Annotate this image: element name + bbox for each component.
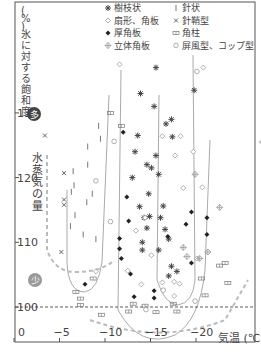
data-point-double-bar — [130, 302, 136, 305]
legend-label: 角柱 — [182, 27, 200, 38]
data-point-circle — [112, 139, 117, 144]
data-points — [43, 62, 261, 316]
y-tick-label: 110 — [17, 236, 38, 249]
data-point-x — [62, 198, 66, 202]
legend-symbol-icon — [105, 5, 111, 11]
data-point-filled-diamond — [189, 261, 194, 266]
x-tick-label: 0 — [18, 326, 25, 339]
data-point-open-diamond — [172, 279, 177, 284]
data-point-asterisk — [156, 247, 162, 253]
y-tick-label: 100 — [17, 301, 38, 314]
data-point-double-bar — [73, 291, 79, 294]
data-point-filled-diamond — [152, 288, 157, 293]
data-point-asterisk — [129, 175, 135, 181]
x-tick-label: −15 — [145, 326, 168, 339]
data-point-filled-diamond — [204, 232, 209, 237]
data-point-asterisk — [168, 263, 174, 269]
data-point-open-diamond — [160, 280, 165, 285]
y-axis-label-char: 飽 — [21, 83, 31, 95]
legend-label: 厚角板 — [114, 27, 141, 38]
data-point-filled-diamond — [132, 294, 137, 299]
data-point-asterisk — [153, 153, 159, 159]
data-point-asterisk — [153, 65, 159, 71]
legend-symbol-icon — [173, 32, 179, 35]
vapor-label-char: 気 — [32, 175, 43, 189]
many-badge: 多 — [27, 107, 41, 121]
data-point-double-bar — [90, 277, 96, 280]
data-point-open-diamond — [133, 228, 138, 233]
plot-frame — [15, 2, 255, 342]
y-axis-label-char: す — [21, 62, 31, 73]
data-point-double-bar — [77, 304, 83, 307]
x-axis-label: 気温 (℃) — [218, 331, 261, 345]
data-point-double-bar — [222, 262, 228, 265]
data-point-open-diamond — [117, 62, 122, 67]
y-axis-label-char: 氷 — [21, 28, 31, 40]
data-point-open-diamond — [191, 149, 196, 154]
data-point-x — [59, 250, 63, 254]
few-badge: 少 — [28, 273, 42, 287]
data-point-filled-diamond — [82, 282, 87, 287]
data-point-asterisk — [144, 162, 150, 168]
data-point-cross-plus — [192, 171, 198, 177]
data-point-asterisk — [166, 273, 172, 279]
data-point-double-bar — [77, 297, 83, 300]
data-point-asterisk — [191, 87, 197, 93]
data-point-circle — [144, 307, 149, 312]
data-point-filled-diamond — [189, 209, 194, 214]
data-point-asterisk — [137, 204, 143, 210]
legend-symbol-icon — [174, 19, 178, 23]
data-point-asterisk — [137, 90, 143, 96]
data-point-open-diamond — [149, 253, 154, 258]
data-point-asterisk — [158, 215, 164, 221]
y-axis-label-char: る — [21, 73, 31, 84]
data-point-x — [43, 134, 47, 138]
y-axis-label-char: 対 — [21, 50, 31, 62]
data-point-circle — [108, 219, 113, 224]
data-point-double-bar — [202, 294, 208, 297]
data-point-asterisk — [160, 203, 166, 209]
column-envelope — [90, 280, 248, 333]
data-point-cross-plus — [259, 139, 261, 145]
data-point-circle — [195, 69, 200, 74]
data-point-asterisk — [168, 116, 174, 122]
data-point-asterisk — [162, 226, 168, 232]
data-point-open-diamond — [177, 281, 182, 286]
data-point-open-diamond — [181, 185, 186, 190]
x-tick-label: −5 — [54, 326, 70, 339]
x-tick-label: −20 — [190, 326, 213, 339]
legend-symbol-icon — [174, 43, 179, 48]
data-point-double-bar — [118, 124, 124, 127]
legend-label: 屏風型、コップ型 — [182, 41, 254, 51]
data-point-double-bar — [217, 264, 223, 267]
data-point-asterisk — [147, 213, 153, 219]
data-point-filled-diamond — [117, 236, 122, 241]
data-point-asterisk — [135, 133, 141, 139]
data-point-filled-diamond — [204, 215, 209, 220]
y-axis-label-char: に — [21, 40, 31, 51]
svg-text:少: 少 — [31, 276, 40, 286]
data-point-open-diamond — [178, 134, 183, 139]
data-point-asterisk — [148, 165, 154, 171]
crystal-habit-chart: 100110120130 0−5−10−15−20 (%)氷に対する飽和度 水蒸… — [0, 0, 261, 357]
data-point-cross-plus — [180, 244, 186, 250]
data-point-double-bar — [153, 311, 159, 314]
data-point-open-diamond — [200, 185, 205, 190]
plate-envelope-left — [118, 70, 121, 310]
plate-envelope-bottom — [118, 140, 210, 339]
data-point-filled-diamond — [183, 222, 188, 227]
data-point-open-diamond — [201, 65, 206, 70]
data-point-circle — [161, 288, 166, 293]
data-point-circle — [94, 179, 99, 184]
data-point-asterisk — [151, 103, 157, 109]
data-point-filled-diamond — [121, 130, 126, 135]
x-tick-label: −10 — [99, 326, 122, 339]
data-point-double-bar — [126, 310, 132, 313]
legend-label: 針状 — [182, 2, 200, 13]
legend-label: 立体角板 — [114, 40, 150, 51]
data-point-asterisk — [174, 268, 180, 274]
data-point-asterisk — [132, 149, 138, 155]
data-point-asterisk — [169, 134, 175, 140]
data-point-cross-plus — [217, 204, 223, 210]
data-point-asterisk — [139, 239, 145, 245]
